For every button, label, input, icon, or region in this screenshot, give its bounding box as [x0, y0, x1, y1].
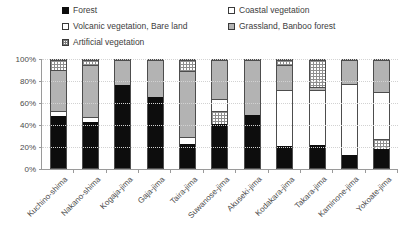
- legend-item-coastal-vegetation: Coastal vegetation: [228, 4, 335, 17]
- y-axis-tick-80pct: 80%: [20, 77, 36, 86]
- legend-label-grassland: Grassland, Banboo forest: [239, 22, 335, 31]
- bar-segment-grassland-banboo-forest[interactable]: [83, 65, 98, 117]
- legend-item-volcanic-vegetation: Volcanic vegetation, Bare land: [62, 20, 187, 33]
- y-axis-tick-60pct: 60%: [20, 99, 36, 108]
- gridline: [42, 59, 398, 60]
- bar-segment-coastal-vegetation[interactable]: [342, 84, 357, 155]
- bar-segment-forest[interactable]: [83, 122, 98, 168]
- x-axis-label-taira-jima: Taira-jima: [168, 175, 199, 206]
- legend-item-artificial-vegetation: Artificial vegetation: [62, 36, 187, 49]
- legend-item-grassland: Grassland, Banboo forest: [228, 20, 335, 33]
- coastal-vegetation-swatch-icon: [228, 7, 235, 14]
- bar-segment-forest[interactable]: [115, 85, 130, 168]
- y-tick-mark: [39, 59, 42, 60]
- forest-swatch-icon: [62, 7, 69, 14]
- x-axis-label-gaja-jima: Gaja-jima: [136, 175, 166, 205]
- y-tick-mark: [39, 103, 42, 104]
- bar-kodakara-jima[interactable]: [276, 59, 293, 169]
- legend-item-forest: Forest: [62, 4, 187, 17]
- x-axis-label-kogaja-jima: Kogaja-jima: [98, 175, 134, 211]
- bar-takara-jima[interactable]: [309, 59, 326, 169]
- bar-akuseki-jima[interactable]: [244, 59, 261, 169]
- bar-segment-artificial-vegetation[interactable]: [212, 111, 227, 124]
- gridline: [42, 103, 398, 104]
- y-axis-tick-labels: 0%20%40%60%80%100%: [0, 52, 40, 176]
- bar-segment-grassland-banboo-forest[interactable]: [245, 60, 260, 115]
- legend-label-coastal-vegetation: Coastal vegetation: [239, 6, 309, 15]
- bar-segment-forest[interactable]: [148, 97, 163, 168]
- bar-segment-coastal-vegetation[interactable]: [212, 99, 227, 111]
- bar-segment-forest[interactable]: [342, 155, 357, 168]
- bar-segment-forest[interactable]: [245, 115, 260, 168]
- bar-suwanose-jima[interactable]: [211, 59, 228, 169]
- y-tick-mark: [39, 147, 42, 148]
- chart-legend: Forest Volcanic vegetation, Bare land Ar…: [0, 4, 408, 50]
- artificial-vegetation-swatch-icon: [62, 39, 69, 46]
- gridline: [42, 125, 398, 126]
- bar-segment-artificial-vegetation[interactable]: [310, 60, 325, 87]
- bar-segment-forest[interactable]: [310, 145, 325, 168]
- bar-segment-forest[interactable]: [51, 116, 66, 168]
- bar-taira-jima[interactable]: [179, 59, 196, 169]
- legend-label-volcanic-vegetation: Volcanic vegetation, Bare land: [73, 22, 187, 31]
- bar-segment-grassland-banboo-forest[interactable]: [374, 60, 389, 92]
- bar-nakano-shima[interactable]: [82, 59, 99, 169]
- gridline: [42, 81, 398, 82]
- bar-segment-coastal-vegetation[interactable]: [374, 92, 389, 138]
- bar-segment-grassland-banboo-forest[interactable]: [212, 60, 227, 99]
- bar-segment-artificial-vegetation[interactable]: [180, 60, 195, 71]
- y-axis-tick-100pct: 100%: [16, 55, 36, 64]
- bar-segment-coastal-vegetation[interactable]: [277, 90, 292, 146]
- y-tick-mark: [39, 125, 42, 126]
- legend-column-left: Forest Volcanic vegetation, Bare land Ar…: [62, 4, 187, 52]
- y-tick-mark: [39, 81, 42, 82]
- grassland-swatch-icon: [228, 23, 235, 30]
- bar-segment-grassland-banboo-forest[interactable]: [148, 60, 163, 97]
- y-axis-tick-40pct: 40%: [20, 121, 36, 130]
- x-axis-category-labels: Kuchino-shimaNakano-shimaKogaja-jimaGaja…: [0, 171, 408, 247]
- chart-plot-wrapper: 0%20%40%60%80%100% Kuchino-shimaNakano-s…: [0, 52, 408, 247]
- bar-gaja-jima[interactable]: [147, 59, 164, 169]
- bar-segment-forest[interactable]: [374, 149, 389, 168]
- bar-segment-coastal-vegetation[interactable]: [310, 90, 325, 145]
- stacked-bar-group: [42, 59, 398, 169]
- bar-kaminone-jima[interactable]: [341, 59, 358, 169]
- bar-kogaja-jima[interactable]: [114, 59, 131, 169]
- bar-segment-forest[interactable]: [277, 146, 292, 168]
- bar-segment-grassland-banboo-forest[interactable]: [51, 70, 66, 111]
- bar-segment-artificial-vegetation[interactable]: [51, 60, 66, 70]
- volcanic-vegetation-swatch-icon: [62, 23, 69, 30]
- legend-column-right: Coastal vegetation Grassland, Banboo for…: [228, 4, 335, 36]
- bar-segment-coastal-vegetation[interactable]: [180, 137, 195, 145]
- bar-kuchino-shima[interactable]: [50, 59, 67, 169]
- bar-segment-grassland-banboo-forest[interactable]: [277, 65, 292, 90]
- gridline: [42, 147, 398, 148]
- bar-yokoate-jima[interactable]: [373, 59, 390, 169]
- bar-segment-forest[interactable]: [212, 124, 227, 168]
- legend-label-forest: Forest: [73, 6, 97, 15]
- y-axis-tick-20pct: 20%: [20, 143, 36, 152]
- legend-label-artificial-vegetation: Artificial vegetation: [73, 38, 144, 47]
- plot-area: [41, 59, 398, 170]
